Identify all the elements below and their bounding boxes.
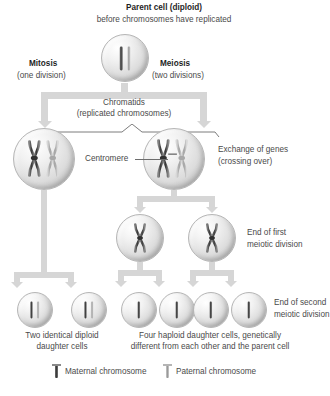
- parent-cell-title: Parent cell (diploid): [0, 3, 328, 13]
- meiosis-sublabel: (two divisions): [152, 71, 204, 81]
- meiosis-label: Meiosis: [160, 59, 190, 69]
- meiosis-result-caption-line2: different from each other and the parent…: [95, 342, 325, 352]
- legend-label-maternal: Maternal chromosome: [65, 367, 146, 377]
- parent-cell-subtitle: before chromosomes have replicated: [0, 15, 328, 25]
- mitosis-long-stem: [41, 190, 47, 275]
- parent-cell-chromosomes: [102, 35, 148, 81]
- meiosis-daughter-cell-2: [159, 292, 195, 328]
- mitosis-replicated-cell: [13, 128, 75, 190]
- end-second-division-line1: End of second: [274, 298, 326, 308]
- parent-cell: [101, 34, 149, 82]
- mitosis-daughter-right-arrowhead: [65, 282, 77, 288]
- meiosis2-left-b-arrowhead: [153, 281, 165, 287]
- meiosis2-right-b-arrowhead: [225, 281, 237, 287]
- meiosis-daughter-2-chromosome: [160, 293, 194, 327]
- centromere-label: Centromere: [85, 154, 128, 164]
- meiosis1-left-arrowhead: [134, 207, 146, 213]
- chromosome-light-icon: [166, 365, 169, 378]
- meiosis-daughter-1-chromosome: [122, 293, 156, 327]
- mitosis-daughter-1-chromosomes: [18, 293, 52, 327]
- mitosis-daughter-crossbar: [14, 272, 74, 278]
- mitosis-sublabel: (one division): [17, 71, 66, 81]
- meiosis-daughter-cell-1: [121, 292, 157, 328]
- chromatids-title: Chromatids: [56, 98, 192, 108]
- meiosis1-right-chromosome: [189, 215, 235, 261]
- centromere-leader-line: [135, 159, 168, 160]
- end-second-division-line2: meiotic division: [274, 310, 330, 320]
- meiosis-first-division-cell-left: [116, 214, 164, 262]
- chromosome-dark-icon-cap: [52, 364, 61, 366]
- meiosis-result-caption-line1: Four haploid daughter cells, genetically: [100, 331, 320, 341]
- crossing-over-line2: (crossing over): [218, 157, 272, 167]
- end-first-division-line2: meiotic division: [247, 240, 303, 250]
- mitosis-daughter-cell-2: [71, 292, 107, 328]
- chromatids-pointer-hook-right: [206, 126, 222, 138]
- end-first-division-line1: End of first: [247, 228, 286, 238]
- meiosis2-right-a-arrowhead: [187, 281, 199, 287]
- meiosis-daughter-3-chromosome: [194, 293, 228, 327]
- meiosis-daughter-cell-3: [193, 292, 229, 328]
- mitosis-replicated-chromosomes: [14, 129, 74, 189]
- mitosis-daughter-cell-1: [17, 292, 53, 328]
- meiosis2-left-a-arrowhead: [115, 281, 127, 287]
- meiosis-first-division-cell-right: [188, 214, 236, 262]
- chromatids-subtitle: (replicated chromosomes): [46, 109, 202, 119]
- meiosis-daughter-4-chromosome: [232, 293, 266, 327]
- mitosis-label: Mitosis: [29, 59, 57, 69]
- mitosis-daughter-left-arrowhead: [11, 282, 23, 288]
- meiosis-daughter-cell-4: [231, 292, 267, 328]
- chromosome-dark-icon: [55, 365, 58, 378]
- mitosis-daughter-2-chromosomes: [72, 293, 106, 327]
- crossing-over-line1: Exchange of genes: [218, 145, 288, 155]
- legend-label-paternal: Paternal chromosome: [176, 367, 256, 377]
- meiosis1-left-chromosome: [117, 215, 163, 261]
- chromosome-light-icon-cap: [163, 364, 172, 366]
- meiosis1-crossbar: [137, 196, 215, 202]
- meiosis1-right-arrowhead: [206, 207, 218, 213]
